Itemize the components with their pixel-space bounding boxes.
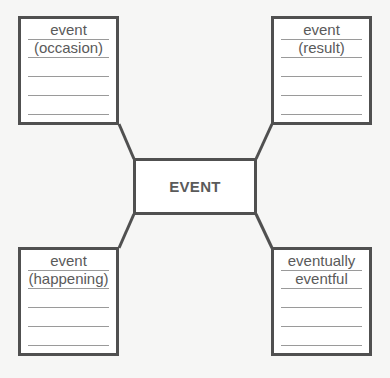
box-top-left: event (occasion) [18,16,119,125]
box-top-right: event (result) [271,16,372,125]
center-box: EVENT [133,158,257,215]
box-heading: event [28,21,109,40]
blank-line[interactable] [281,327,362,346]
center-label: EVENT [169,178,221,195]
box-subheading: (result) [281,39,362,58]
blank-line[interactable] [281,308,362,327]
box-bottom-left: event (happening) [18,247,119,356]
blank-line[interactable] [28,58,109,77]
blank-line[interactable] [281,77,362,96]
blank-line[interactable] [281,289,362,308]
box-heading: event [28,252,109,271]
box-bottom-right: eventually eventful [271,247,372,356]
box-heading: event [281,21,362,40]
blank-line[interactable] [28,96,109,115]
blank-line[interactable] [281,58,362,77]
box-subheading: (occasion) [28,39,109,58]
blank-line[interactable] [28,77,109,96]
box-subheading: eventful [281,270,362,289]
blank-line[interactable] [28,308,109,327]
box-subheading: (happening) [28,270,109,289]
box-heading: eventually [281,252,362,271]
blank-line[interactable] [28,289,109,308]
blank-line[interactable] [281,96,362,115]
blank-line[interactable] [28,327,109,346]
